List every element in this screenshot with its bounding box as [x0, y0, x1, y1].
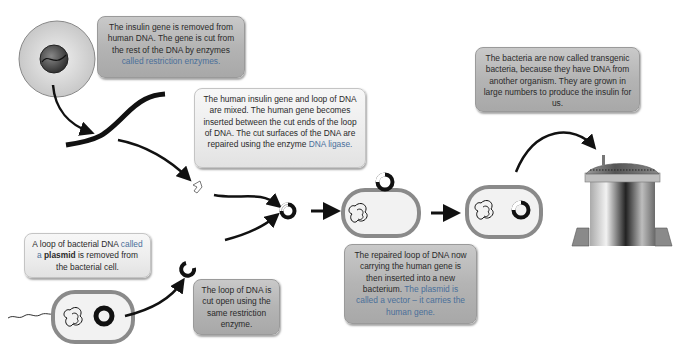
- transgenic-bacterium-icon: [467, 187, 541, 237]
- callout-text: A loop of bacterial DNA: [32, 239, 120, 249]
- callout-highlight-text: called restriction enzymes.: [122, 56, 221, 66]
- recombinant-plasmid-icon: [378, 175, 393, 190]
- callout-highlight-text: DNA ligase.: [309, 139, 353, 149]
- bacterium-icon: [343, 190, 419, 236]
- arrow-icon: [214, 195, 278, 205]
- dna-strand-icon: [66, 94, 165, 145]
- recombinant-plasmid-icon: [282, 205, 295, 218]
- insulin-gene-fragment-icon: [193, 181, 202, 193]
- human-cell-icon: [19, 21, 95, 97]
- step-plasmid-removal-callout: A loop of bacterial DNA called a plasmid…: [24, 233, 151, 278]
- step-transgenic-callout: The bacteria are now called transgenic b…: [475, 47, 640, 112]
- step-gene-removal-callout: The insulin gene is removed from human D…: [97, 16, 245, 78]
- callout-text: The loop of DNA is cut open using the sa…: [202, 285, 272, 329]
- fermenter-tank-icon: [572, 155, 672, 246]
- step-insertion-callout: The repaired loop of DNA now carrying th…: [344, 244, 477, 324]
- callout-text: The bacteria are now called transgenic b…: [484, 53, 632, 108]
- step-mixing-callout: The human insulin gene and loop of DNA a…: [194, 88, 366, 168]
- cut-plasmid-icon: [181, 263, 194, 276]
- arrow-icon: [118, 140, 188, 178]
- plasmid-term: plasmid: [44, 250, 76, 260]
- arrow-icon: [225, 216, 276, 240]
- step-cut-open-callout: The loop of DNA is cut open using the sa…: [193, 279, 280, 335]
- arrow-icon: [516, 133, 593, 172]
- callout-text: The insulin gene is removed from human D…: [108, 22, 234, 55]
